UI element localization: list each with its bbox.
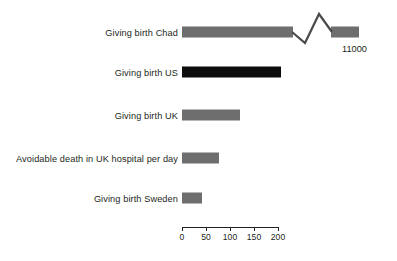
category-label-giving-birth-chad: Giving birth Chad <box>105 27 178 39</box>
x-axis-tick-label-50: 50 <box>201 232 211 242</box>
x-axis-tick-label-200: 200 <box>271 232 285 242</box>
axis-break-zigzag-icon <box>288 8 338 52</box>
x-axis-tick-0 <box>182 227 183 231</box>
x-axis-tick-100 <box>230 227 231 231</box>
bar-giving-birth-uk <box>182 110 240 121</box>
bar-giving-birth-us <box>182 67 281 78</box>
x-axis-tick-label-100: 100 <box>223 232 237 242</box>
category-label-giving-birth-us: Giving birth US <box>115 67 178 79</box>
x-axis-tick-50 <box>206 227 207 231</box>
bar-avoidable-death-uk-hospital <box>182 153 219 164</box>
bar-giving-birth-chad-segment-1 <box>182 27 293 38</box>
bar-giving-birth-sweden <box>182 193 202 204</box>
x-axis-tick-200 <box>278 227 279 231</box>
category-label-avoidable-death-uk-hospital: Avoidable death in UK hospital per day <box>16 153 178 165</box>
x-axis-tick-150 <box>254 227 255 231</box>
x-axis-tick-label-0: 0 <box>180 232 185 242</box>
bar-chart: Giving birth Chad Giving birth US Giving… <box>0 0 397 261</box>
value-label-giving-birth-chad: 11000 <box>342 44 367 54</box>
x-axis-tick-label-150: 150 <box>247 232 261 242</box>
category-label-giving-birth-uk: Giving birth UK <box>115 110 178 122</box>
category-label-giving-birth-sweden: Giving birth Sweden <box>94 193 178 205</box>
